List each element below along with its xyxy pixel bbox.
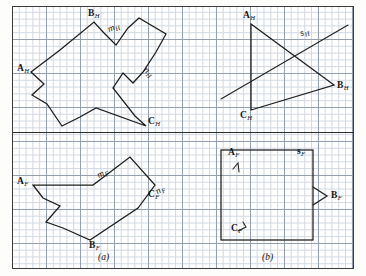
- a-f-tick-marker: [233, 163, 239, 172]
- label-c-f-rect: CF: [231, 223, 242, 234]
- polygon-bottom-left: [33, 157, 155, 240]
- label-b-f-rect: BF: [331, 190, 342, 201]
- label-a-f-rect: AF: [228, 147, 239, 158]
- caption-b: (b): [262, 252, 273, 262]
- drawing-layer: [0, 0, 366, 276]
- label-b-h-triangle: BH: [337, 80, 349, 91]
- label-c-h: CH: [148, 116, 160, 127]
- figure-plate: AH BH CH mH nH AF BF CF mF nF AH BH CH s…: [0, 0, 366, 276]
- label-s-f: sF: [297, 146, 305, 157]
- label-b-h: BH: [88, 8, 100, 19]
- label-a-h: AH: [17, 63, 29, 74]
- b-f-arrow-marker: [313, 187, 327, 205]
- label-a-f: AF: [17, 176, 28, 187]
- label-a-h-triangle: AH: [243, 10, 255, 21]
- label-b-f: BF: [89, 240, 100, 251]
- line-s-h: [221, 25, 348, 99]
- label-c-h-triangle: CH: [240, 110, 252, 121]
- triangle-top-right: [251, 24, 334, 110]
- caption-a: (a): [98, 252, 109, 262]
